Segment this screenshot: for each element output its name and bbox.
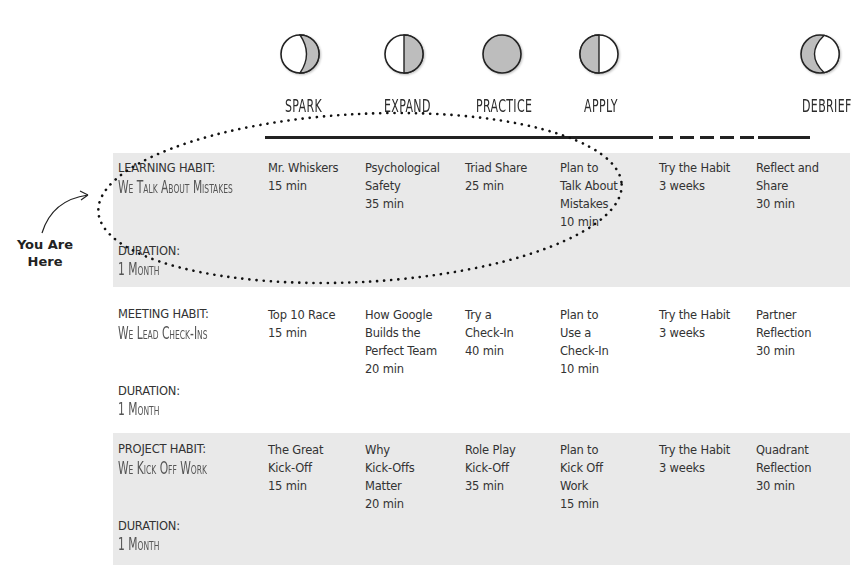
arrow-icon: [0, 0, 860, 581]
you-are-here-line: You Are: [10, 236, 80, 253]
you-are-here-label: You Are Here: [10, 236, 80, 270]
you-are-here-line: Here: [10, 253, 80, 270]
